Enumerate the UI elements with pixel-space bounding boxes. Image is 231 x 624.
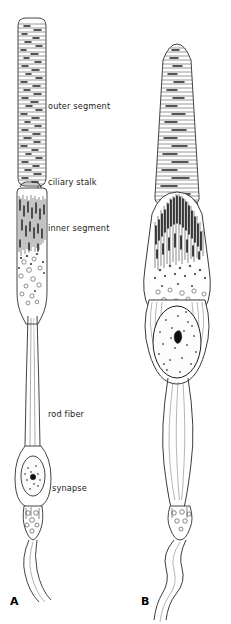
- panel-letter-b: B: [141, 596, 149, 608]
- label-outer-segment: outer segment: [48, 101, 110, 111]
- axon-tail-a: [24, 540, 51, 602]
- label-inner-segment: inner segment: [48, 223, 110, 233]
- cell-b-cone: [144, 44, 211, 622]
- synapse-a: [23, 506, 43, 540]
- photoreceptor-figure: [0, 0, 231, 624]
- cell-body-b: [145, 300, 209, 384]
- rod-fiber-a: [25, 316, 40, 446]
- label-rod-fiber: rod fiber: [48, 409, 84, 419]
- nucleolus-b: [174, 331, 182, 344]
- label-ciliary-stalk: ciliary stalk: [48, 177, 97, 187]
- label-synapse: synapse: [52, 483, 87, 493]
- outer-segment-a: [16, 18, 48, 186]
- nucleolus-a: [30, 474, 35, 480]
- synapse-b: [168, 506, 192, 540]
- cone-fiber-b: [163, 378, 193, 508]
- axon-tail-b: [154, 540, 186, 622]
- photoreceptor-diagram-svg: [0, 0, 231, 624]
- inner-segment-a: [17, 188, 47, 324]
- cell-a-rod: [15, 18, 51, 602]
- cell-body-a: [15, 446, 51, 508]
- panel-letter-a: A: [10, 596, 19, 608]
- outer-segment-b: [150, 44, 208, 204]
